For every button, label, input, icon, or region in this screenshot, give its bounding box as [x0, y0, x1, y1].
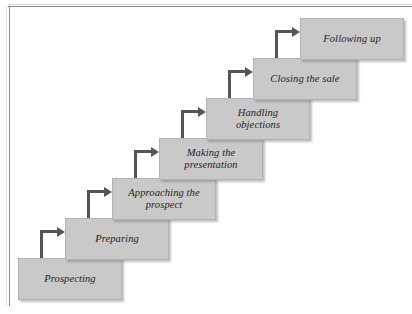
step-box-closing: Closing the sale: [253, 58, 357, 100]
step-box-objections: Handling objections: [206, 98, 310, 140]
arrow-head: [245, 67, 253, 77]
arrow-prospecting-to-preparing-icon: [40, 230, 65, 260]
arrow-run: [228, 70, 245, 73]
arrow-riser: [181, 110, 184, 140]
arrow-head: [198, 107, 206, 117]
step-box-preparing: Preparing: [65, 218, 169, 260]
page-border-top: [8, 6, 412, 7]
page-border-top-hairline: [8, 4, 412, 5]
arrow-run: [275, 30, 292, 33]
step-box-approaching: Approaching the prospect: [112, 178, 216, 220]
step-label-following-up: Following up: [323, 33, 381, 46]
arrow-preparing-to-approaching-icon: [87, 190, 112, 220]
arrow-riser: [40, 230, 43, 260]
arrow-riser: [134, 150, 137, 180]
step-label-presentation: Making the presentation: [184, 147, 237, 172]
step-label-preparing: Preparing: [95, 233, 139, 246]
arrow-run: [181, 110, 198, 113]
arrow-riser: [87, 190, 90, 220]
step-box-following-up: Following up: [300, 18, 404, 60]
arrow-head: [104, 187, 112, 197]
diagram-canvas: ProspectingPreparingApproaching the pros…: [0, 0, 412, 314]
step-label-objections: Handling objections: [236, 107, 280, 132]
arrow-approaching-to-presentation-icon: [134, 150, 159, 180]
arrow-head: [57, 227, 65, 237]
arrow-objections-to-closing-icon: [228, 70, 253, 100]
arrow-riser: [228, 70, 231, 100]
arrow-head: [151, 147, 159, 157]
arrow-run: [134, 150, 151, 153]
page-border-left-hairline: [6, 6, 7, 306]
arrow-head: [292, 27, 300, 37]
arrow-run: [87, 190, 104, 193]
arrow-run: [40, 230, 57, 233]
step-label-closing: Closing the sale: [270, 73, 339, 86]
step-box-presentation: Making the presentation: [159, 138, 263, 180]
step-box-prospecting: Prospecting: [18, 258, 122, 300]
step-label-prospecting: Prospecting: [44, 273, 95, 286]
arrow-closing-to-following-up-icon: [275, 30, 300, 60]
page-border-left: [9, 6, 10, 306]
step-label-approaching: Approaching the prospect: [128, 187, 199, 212]
arrow-presentation-to-objections-icon: [181, 110, 206, 140]
arrow-riser: [275, 30, 278, 60]
